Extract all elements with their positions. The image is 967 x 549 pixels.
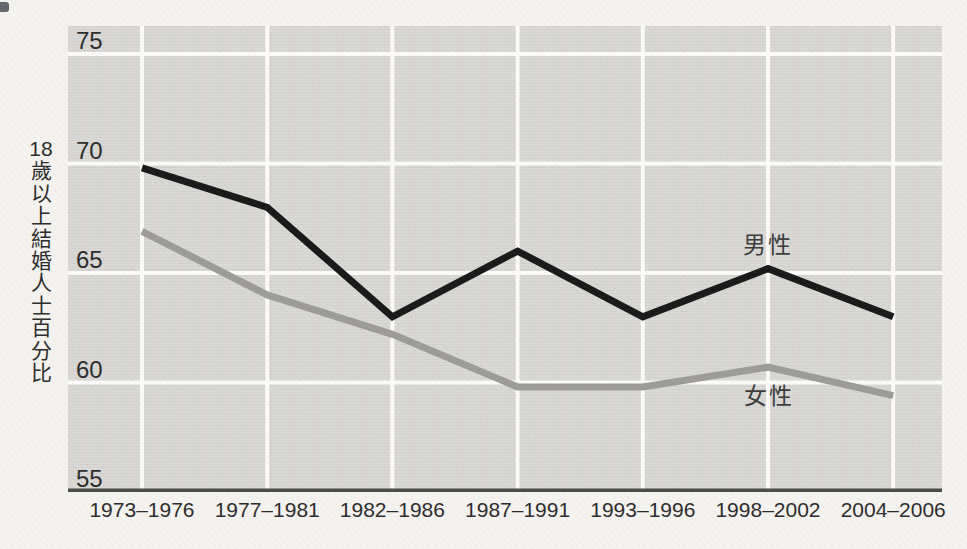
plot-area: 7570656055 <box>68 26 942 492</box>
y-axis-title-char: 比 <box>27 362 55 384</box>
y-tick-label: 65 <box>76 246 103 274</box>
chart-canvas <box>68 26 942 492</box>
y-tick-label: 55 <box>76 465 103 493</box>
y-axis-title-char: 婚 <box>27 250 55 272</box>
y-axis-title-char: 百 <box>27 317 55 339</box>
series-label-female: 女性 <box>744 377 794 411</box>
y-tick-label: 75 <box>76 27 103 55</box>
y-axis-title-char: 人 <box>27 272 55 294</box>
y-axis-title-char: 以 <box>27 183 55 205</box>
chart-page: 18歲以上結婚人士百分比 7570656055 男性 女性 1973–19761… <box>0 0 967 549</box>
y-axis-title-char: 上 <box>27 205 55 227</box>
scan-artifact <box>0 2 9 12</box>
y-tick-label: 60 <box>76 356 103 384</box>
y-axis-title-char: 士 <box>27 295 55 317</box>
y-axis-title: 18歲以上結婚人士百分比 <box>27 138 55 384</box>
y-axis-title-char: 歲 <box>27 160 55 182</box>
series-label-male: 男性 <box>743 226 793 260</box>
y-axis-title-char: 18 <box>27 138 55 160</box>
y-tick-label: 70 <box>76 137 103 165</box>
y-axis-title-char: 結 <box>27 228 55 250</box>
x-tick-label: 2004–2006 <box>818 498 967 522</box>
y-axis-title-char: 分 <box>27 340 55 362</box>
